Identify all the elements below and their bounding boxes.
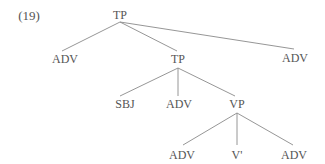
node-adv-vp-left: ADV [169, 149, 195, 161]
node-adv-right: ADV [282, 52, 308, 64]
node-adv-left: ADV [52, 53, 78, 65]
node-vp: VP [229, 98, 244, 110]
branch-tp-mid-to-sbj [120, 68, 178, 96]
syntax-tree-diagram: (19) TP ADV TP ADV SBJ ADV VP ADV V' ADV [0, 0, 325, 164]
node-v-bar: V' [232, 149, 243, 161]
branch-vp-to-adv-left [183, 113, 237, 145]
node-tp-root: TP [113, 9, 127, 21]
tree-branches [0, 0, 325, 164]
node-tp-mid: TP [171, 53, 185, 65]
branch-vp-to-adv-right [237, 113, 293, 145]
node-sbj: SBJ [115, 98, 134, 110]
node-adv-mid: ADV [166, 98, 192, 110]
branch-tp-mid-to-vp [178, 68, 235, 96]
node-adv-vp-right: ADV [281, 149, 307, 161]
example-number: (19) [18, 9, 40, 22]
branch-tp-root-to-adv-left [62, 22, 120, 51]
